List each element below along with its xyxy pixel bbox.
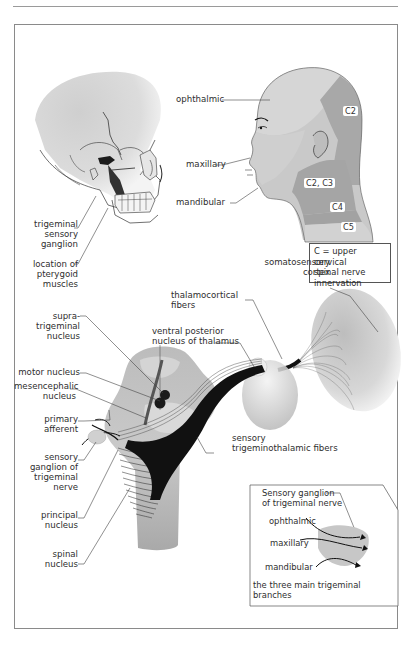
tag-c2: C2 [343, 106, 358, 116]
label-line: ventral posterior [152, 326, 239, 336]
inset-title-line: of trigeminal nerve [262, 498, 326, 508]
label-ventral-posterior-nucleus: ventral posterior nucleus of thalamus [152, 326, 239, 346]
label-line: pterygoid [20, 269, 78, 279]
label-ophthalmic: ophthalmic [176, 94, 224, 104]
label-line: trigeminal [28, 219, 78, 229]
label-line: sensory [18, 452, 78, 462]
label-line: trigeminal [18, 472, 78, 482]
label-line: nucleus of thalamus [152, 336, 239, 346]
label-line: thalamocortical [171, 290, 238, 300]
inset-label-mandibular: mandibular [265, 562, 313, 572]
tag-c4: C4 [330, 202, 345, 212]
label-line: fibers [171, 300, 238, 310]
label-pterygoid-muscles: location of pterygoid muscles [20, 259, 78, 289]
label-line: supra- [18, 311, 80, 321]
label-line: sensory [28, 229, 78, 239]
label-line: mesencephalic [14, 381, 76, 391]
inset-caption-line: the three main trigeminal [253, 580, 361, 590]
inset-title: Sensory ganglion of trigeminal nerve [262, 488, 326, 508]
label-sensory-ganglion: sensory ganglion of trigeminal nerve [18, 452, 78, 492]
label-mesencephalic-nucleus: mesencephalic nucleus [14, 381, 76, 401]
label-line: principal [18, 510, 78, 520]
label-line: trigeminal [18, 321, 80, 331]
label-line: location of [20, 259, 78, 269]
inset-label-ophthalmic: ophthalmic [269, 516, 316, 526]
label-line: muscles [20, 279, 78, 289]
label-line: nucleus [18, 559, 78, 569]
legend-line: innervation [314, 278, 386, 289]
label-line: nucleus [18, 331, 80, 341]
label-line: primary [18, 414, 78, 424]
label-line: motor nucleus [14, 367, 80, 377]
label-primary-afferent: primary afferent [18, 414, 78, 434]
inset-label-maxillary: maxillary [270, 538, 309, 548]
label-line: nucleus [18, 520, 78, 530]
label-principal-nucleus: principal nucleus [18, 510, 78, 530]
label-trigeminal-sensory-ganglion: trigeminal sensory ganglion [28, 219, 78, 249]
label-spinal-nucleus: spinal nucleus [18, 549, 78, 569]
label-thalamocortical-fibers: thalamocortical fibers [171, 290, 238, 310]
label-somatosensory-cortex: somatosensory cortex [250, 257, 330, 277]
inset-title-line: Sensory ganglion [262, 488, 326, 498]
label-motor-nucleus: motor nucleus [14, 367, 80, 377]
label-line: spinal [18, 549, 78, 559]
label-line: nerve [18, 482, 78, 492]
tag-c5: C5 [341, 222, 356, 232]
head-dermatome-illustration [216, 68, 373, 242]
label-line: trigeminothalamic fibers [232, 443, 338, 453]
tag-c2-c3: C2, C3 [304, 178, 335, 188]
label-line: ganglion [28, 239, 78, 249]
label-supratrigeminal-nucleus: supra- trigeminal nucleus [18, 311, 80, 341]
label-line: somatosensory [250, 257, 330, 267]
label-line: nucleus [14, 391, 76, 401]
label-line: afferent [18, 424, 78, 434]
thalamus-illustration [215, 300, 298, 430]
label-mandibular: mandibular [176, 197, 225, 207]
inset-caption: the three main trigeminal branches [253, 580, 361, 600]
label-line: sensory [232, 433, 338, 443]
label-line: ganglion of [18, 462, 78, 472]
label-trigeminothalamic-fibers: sensory trigeminothalamic fibers [232, 433, 338, 453]
somatosensory-cortex-illustration [278, 280, 412, 420]
label-maxillary: maxillary [186, 159, 226, 169]
label-line: cortex [250, 267, 330, 277]
inset-caption-line: branches [253, 590, 361, 600]
